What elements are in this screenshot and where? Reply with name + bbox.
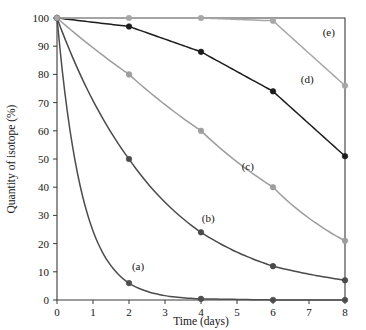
y-tick-label: 50 xyxy=(38,153,50,165)
marker-c-x4 xyxy=(198,128,204,134)
marker-b-x4 xyxy=(198,230,204,236)
y-tick-label: 0 xyxy=(44,294,50,306)
x-axis-title: Time (days) xyxy=(173,315,229,328)
marker-a-x6 xyxy=(270,297,276,303)
x-tick-label: 6 xyxy=(270,306,276,318)
marker-e-x4 xyxy=(198,15,204,21)
chart-figure: 012345678 0102030405060708090100 (a)(b)(… xyxy=(0,0,366,330)
marker-c-x6 xyxy=(270,184,276,190)
y-tick-label: 100 xyxy=(33,12,50,24)
y-tick-label: 30 xyxy=(38,209,50,221)
chart-background xyxy=(0,0,366,330)
marker-d-x4 xyxy=(198,49,204,55)
marker-e-x6 xyxy=(270,18,276,24)
y-tick-label: 10 xyxy=(38,266,50,278)
y-tick-label: 70 xyxy=(38,97,50,109)
x-tick-label: 7 xyxy=(306,306,312,318)
isotope-decay-chart: 012345678 0102030405060708090100 (a)(b)(… xyxy=(0,0,366,330)
annotation-b: (b) xyxy=(202,212,215,225)
marker-c-x8 xyxy=(342,238,348,244)
marker-c-x2 xyxy=(126,72,132,78)
marker-d-x2 xyxy=(126,24,132,30)
marker-a-x4 xyxy=(198,296,204,302)
marker-a-x2 xyxy=(126,280,132,286)
x-tick-label: 0 xyxy=(54,306,60,318)
x-tick-label: 1 xyxy=(90,306,96,318)
x-tick-label: 5 xyxy=(234,306,240,318)
annotation-a: (a) xyxy=(132,260,145,273)
marker-d-x8 xyxy=(342,153,348,159)
x-tick-label: 2 xyxy=(126,306,132,318)
marker-a-x8 xyxy=(342,297,348,303)
marker-b-x6 xyxy=(270,263,276,269)
x-tick-label: 3 xyxy=(162,306,168,318)
y-tick-label: 80 xyxy=(38,68,50,80)
y-tick-label: 60 xyxy=(38,125,50,137)
marker-b-x8 xyxy=(342,277,348,283)
annotation-e: (e) xyxy=(323,26,336,39)
marker-e-x2 xyxy=(126,15,132,21)
annotation-d: (d) xyxy=(301,73,314,86)
annotation-c: (c) xyxy=(242,160,255,173)
x-tick-label: 8 xyxy=(342,306,348,318)
y-tick-label: 20 xyxy=(38,238,50,250)
marker-e-x0 xyxy=(54,15,60,21)
y-tick-label: 40 xyxy=(38,181,50,193)
marker-d-x6 xyxy=(270,89,276,95)
marker-e-x8 xyxy=(342,83,348,89)
marker-b-x2 xyxy=(126,156,132,162)
y-tick-label: 90 xyxy=(38,40,50,52)
y-axis-title: Quantity of isotope (%) xyxy=(5,104,18,213)
